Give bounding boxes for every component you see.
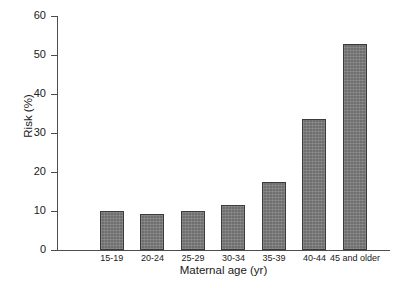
bar — [140, 214, 164, 250]
y-axis-tick-label: 20 — [16, 166, 46, 177]
x-axis-tick-label: 25-29 — [181, 253, 204, 263]
bar — [343, 44, 367, 250]
y-axis-tick-label: 50 — [16, 49, 46, 60]
x-axis-tick-label: 30-34 — [222, 253, 245, 263]
bar — [100, 211, 124, 250]
y-axis-tick-label: 0 — [16, 244, 46, 255]
x-axis-line — [57, 250, 390, 251]
x-axis-tick-label: 20-24 — [141, 253, 164, 263]
bar — [221, 205, 245, 250]
bar — [181, 211, 205, 250]
y-axis-tick-label: 60 — [16, 10, 46, 21]
bar — [262, 182, 286, 250]
x-axis-tick-label: 15-19 — [100, 253, 123, 263]
y-axis-tick-label: 10 — [16, 205, 46, 216]
bars-layer — [57, 16, 390, 250]
x-axis-title: Maternal age (yr) — [57, 264, 390, 277]
bar — [302, 119, 326, 250]
y-axis-title: Risk (%) — [22, 81, 34, 151]
bar-chart: 0102030405060 Risk (%) 15-1920-2425-2930… — [0, 0, 394, 288]
x-axis-tick-label: 40-44 — [303, 253, 326, 263]
x-axis-tick-label: 35-39 — [262, 253, 285, 263]
x-axis-tick-label: 45 and older — [330, 253, 380, 263]
